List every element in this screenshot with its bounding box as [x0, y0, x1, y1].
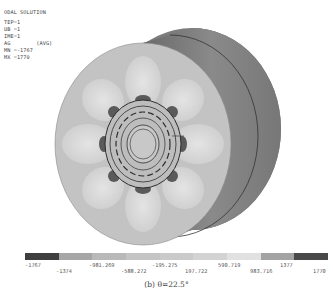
colorbar-segment-4 [126, 253, 160, 260]
colorbar-segment-7 [227, 253, 261, 260]
colorbar-segment-8 [261, 253, 295, 260]
colorbar-segment-5 [160, 253, 194, 260]
colorbar-tick-9: 1770 [313, 268, 326, 274]
colorbar-segment-6 [193, 253, 227, 260]
colorbar-tick-3: -588.272 [121, 268, 147, 274]
colorbar-tick-6: 590.719 [218, 262, 240, 268]
colorbar-tick-2: -981.269 [89, 262, 115, 268]
colorbar-tick-4: -195.275 [152, 262, 178, 268]
colorbar-segment-1 [25, 253, 59, 260]
colorbar-tick-8: 1377 [280, 262, 293, 268]
colorbar-tick-0: -1767 [25, 262, 41, 268]
colorbar-segment-2 [59, 253, 93, 260]
cylinder-front-face [55, 43, 231, 245]
colorbar-segment-3 [92, 253, 126, 260]
cylinder-contour-plot [0, 0, 333, 250]
colorbar-tick-7: 983.716 [250, 268, 272, 274]
colorbar-tick-1: -1374 [56, 268, 72, 274]
figure-caption: (b) θ=22.5° [0, 280, 333, 289]
colorbar [25, 253, 328, 260]
colorbar-tick-5: 197.722 [185, 268, 207, 274]
colorbar-segment-9 [294, 253, 328, 260]
